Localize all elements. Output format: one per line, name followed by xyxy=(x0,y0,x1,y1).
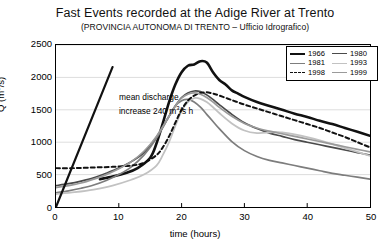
legend-row: 19811993 xyxy=(290,59,374,69)
chart-title: Fast Events recorded at the Adige River … xyxy=(0,6,390,20)
x-axis-labels: 01020304050 xyxy=(0,212,390,226)
y-axis-tick-label: 2000 xyxy=(4,72,52,82)
legend-label: 1980 xyxy=(350,50,367,58)
x-axis-title: time (hours) xyxy=(0,228,390,239)
x-axis-tick-label: 30 xyxy=(230,212,260,222)
legend-label: 1999 xyxy=(350,69,367,77)
legend-item-1993[interactable]: 1993 xyxy=(332,59,374,67)
annotation-line-2-pre: increase 240 m xyxy=(119,105,176,115)
legend-label: 1966 xyxy=(308,50,325,58)
y-axis-tick-label: 500 xyxy=(4,170,52,180)
chart-legend: 196619801981199319981999 xyxy=(286,46,378,81)
legend-swatch-icon xyxy=(332,53,347,54)
annotation-line-1: mean discharge xyxy=(119,92,179,102)
x-axis-tick-label: 0 xyxy=(40,212,70,222)
y-axis-tick-label: 1000 xyxy=(4,137,52,147)
x-axis-tick-label: 20 xyxy=(166,212,196,222)
y-axis-tick-label: 2500 xyxy=(4,39,52,49)
series-line-mean-discharge-increase-reference xyxy=(56,67,113,207)
legend-item-1980[interactable]: 1980 xyxy=(332,50,374,58)
series-line-1998 xyxy=(56,92,370,168)
x-axis-tick-label: 10 xyxy=(103,212,133,222)
legend-swatch-icon xyxy=(290,53,305,55)
y-axis-tick-label: 1500 xyxy=(4,105,52,115)
legend-swatch-icon xyxy=(332,72,347,73)
legend-item-1981[interactable]: 1981 xyxy=(290,59,332,67)
legend-swatch-icon xyxy=(332,63,347,64)
x-axis-tick-label: 50 xyxy=(356,212,386,222)
chart-subtitle: (PROVINCIA AUTONOMA DI TRENTO – Ufficio … xyxy=(0,22,390,32)
legend-row: 19661980 xyxy=(290,49,374,59)
legend-label: 1998 xyxy=(308,69,325,77)
legend-row: 19981999 xyxy=(290,68,374,78)
legend-swatch-icon xyxy=(290,63,305,64)
x-axis-tick-label: 40 xyxy=(293,212,323,222)
legend-label: 1981 xyxy=(308,59,325,67)
annotation-line-2-post: /s h xyxy=(180,105,194,115)
legend-item-1998[interactable]: 1998 xyxy=(290,69,332,77)
legend-label: 1993 xyxy=(350,59,367,67)
chart-figure: Fast Events recorded at the Adige River … xyxy=(0,0,390,249)
legend-item-1999[interactable]: 1999 xyxy=(332,69,374,77)
legend-item-1966[interactable]: 1966 xyxy=(290,50,332,58)
annotation-mean-discharge: mean discharge increase 240 m3/s h xyxy=(119,92,193,116)
data-series-group xyxy=(56,61,370,207)
legend-swatch-icon xyxy=(290,72,305,73)
